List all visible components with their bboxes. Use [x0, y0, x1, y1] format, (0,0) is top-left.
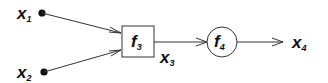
output-label-x4: x4	[291, 33, 306, 53]
edge-x1-f3	[42, 13, 121, 33]
input-node-x1	[38, 9, 45, 16]
input-label-x2: x2	[16, 63, 31, 83]
input-label-x1: x1	[16, 4, 31, 24]
diagram-canvas: x1 x2 f3 x3 f4 x4	[0, 0, 328, 83]
intermediate-label-x3: x3	[159, 48, 174, 68]
edge-x2-f3	[44, 50, 121, 72]
